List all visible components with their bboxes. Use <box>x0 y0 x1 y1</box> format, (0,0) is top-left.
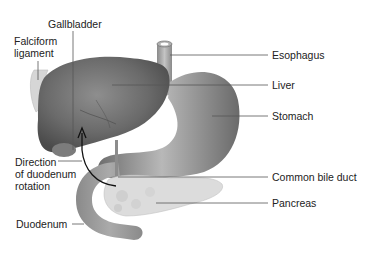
label-gallbladder: Gallbladder <box>48 18 102 30</box>
anatomy-diagram: Gallbladder Falciform ligament Esophagus… <box>0 0 367 259</box>
label-falciform-ligament: Falciform ligament <box>14 35 57 59</box>
label-pancreas: Pancreas <box>272 197 316 209</box>
label-direction-of-rotation: Direction of duodenum rotation <box>15 156 76 192</box>
liver-shape <box>38 57 170 157</box>
label-duodenum: Duodenum <box>16 218 67 230</box>
label-liver: Liver <box>272 79 295 91</box>
common-bile-duct-shape <box>115 140 118 176</box>
label-common-bile-duct: Common bile duct <box>272 171 357 183</box>
label-stomach: Stomach <box>272 110 313 122</box>
pancreas-shape <box>104 175 223 216</box>
label-esophagus: Esophagus <box>272 49 325 61</box>
